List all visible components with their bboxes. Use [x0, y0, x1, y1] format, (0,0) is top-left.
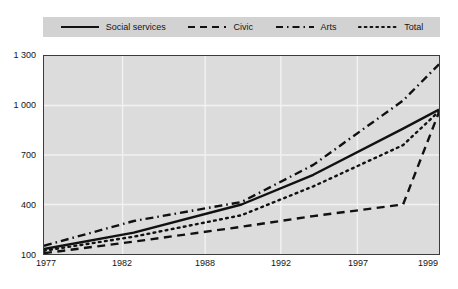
- series-line-civic: [44, 112, 439, 253]
- legend-label-total: Total: [404, 22, 423, 32]
- x-tick-label: 1982: [112, 258, 132, 268]
- line-dashdot-swatch: [275, 22, 315, 32]
- x-tick-label: 1992: [271, 258, 291, 268]
- line-dashed-swatch: [187, 22, 227, 32]
- x-tick-label: 1997: [348, 258, 368, 268]
- y-axis: 1 300 1 000 700 400 100: [0, 0, 38, 289]
- legend-label-civic: Civic: [233, 22, 253, 32]
- x-tick-label: 1977: [36, 258, 56, 268]
- legend-item-civic[interactable]: Civic: [187, 22, 253, 32]
- chart-figure: Social services Civic Arts Total 1 300 1…: [0, 0, 458, 289]
- y-tick-label: 700: [0, 151, 36, 160]
- y-tick-label: 400: [0, 201, 36, 210]
- y-tick-label: 1 300: [0, 51, 36, 60]
- legend-label-arts: Arts: [321, 22, 337, 32]
- plot-canvas: [44, 56, 439, 254]
- x-axis: 1977 1982 1988 1992 1997 1999: [0, 258, 458, 274]
- y-tick-label: 1 000: [0, 101, 36, 110]
- data-series-group: [44, 64, 439, 253]
- legend-label-social-services: Social services: [106, 22, 166, 32]
- legend-item-total[interactable]: Total: [358, 22, 423, 32]
- x-tick-label: 1988: [195, 258, 215, 268]
- line-dotted-swatch: [358, 22, 398, 32]
- line-solid-swatch: [60, 22, 100, 32]
- chart-legend: Social services Civic Arts Total: [43, 17, 440, 37]
- series-line-social-services: [44, 110, 439, 249]
- legend-item-arts[interactable]: Arts: [275, 22, 337, 32]
- plot-area: [43, 55, 440, 255]
- legend-item-social-services[interactable]: Social services: [60, 22, 166, 32]
- x-tick-label: 1999: [418, 258, 438, 268]
- series-line-total: [44, 111, 439, 250]
